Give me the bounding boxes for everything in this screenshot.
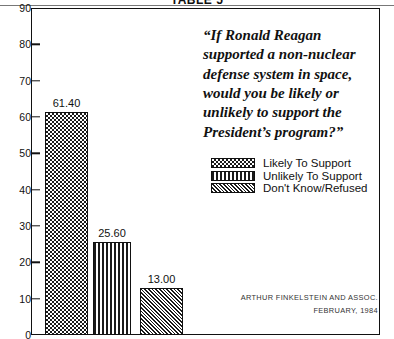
attribution: ARTHUR FINKELSTEIN AND ASSOC. FEBRUARY, …	[241, 292, 378, 318]
bar-pattern	[46, 113, 87, 334]
quote-line: “If Ronald Reagan	[203, 26, 378, 45]
y-tick-mark	[31, 153, 40, 154]
y-tick-mark	[31, 298, 40, 299]
y-axis: 0102030405060708090	[0, 0, 31, 339]
y-tick-mark	[31, 44, 40, 45]
legend-item: Unlikely To Support	[211, 170, 367, 183]
attribution-firm: ARTHUR FINKELSTEIN AND ASSOC.	[241, 292, 378, 305]
quote-line: President’s program?”	[203, 123, 378, 142]
question-quote: “If Ronald Reagansupported a non-nuclear…	[203, 26, 378, 142]
bar-pattern	[141, 289, 182, 334]
legend-swatch	[211, 171, 255, 181]
y-tick-label: 20	[5, 257, 31, 268]
title-divider	[0, 5, 394, 6]
bar	[45, 112, 88, 335]
legend-label: Don't Know/Refused	[263, 182, 367, 194]
legend-label: Unlikely To Support	[263, 170, 362, 182]
legend-swatch	[211, 183, 255, 193]
legend-label: Likely To Support	[263, 157, 351, 169]
quote-line: would you be likely or	[203, 84, 378, 103]
y-tick-label: 80	[5, 39, 31, 50]
bar-value-label: 61.40	[53, 97, 81, 109]
y-tick-mark	[31, 189, 40, 190]
y-tick-label: 70	[5, 75, 31, 86]
quote-line: defense system in space,	[203, 65, 378, 84]
attribution-date: FEBRUARY, 1984	[241, 305, 378, 318]
y-tick-mark	[31, 80, 40, 81]
legend: Likely To SupportUnlikely To SupportDon'…	[211, 157, 367, 195]
y-tick-mark	[31, 116, 40, 117]
y-tick-label: 90	[5, 3, 31, 14]
y-tick-label: 60	[5, 112, 31, 123]
bar-pattern	[94, 243, 130, 334]
quote-line: unlikely to support the	[203, 103, 378, 122]
y-tick-label: 40	[5, 184, 31, 195]
bar-value-label: 25.60	[98, 227, 126, 239]
y-tick-mark	[31, 262, 40, 263]
legend-swatch	[211, 158, 255, 168]
y-tick-label: 30	[5, 221, 31, 232]
bar	[140, 288, 183, 335]
bar-value-label: 13.00	[148, 273, 176, 285]
y-tick-label: 0	[5, 330, 31, 339]
legend-item: Don't Know/Refused	[211, 182, 367, 195]
y-tick-mark	[31, 225, 40, 226]
quote-line: supported a non-nuclear	[203, 45, 378, 64]
y-tick-label: 50	[5, 148, 31, 159]
bar	[93, 242, 131, 335]
y-tick-label: 10	[5, 293, 31, 304]
legend-item: Likely To Support	[211, 157, 367, 170]
